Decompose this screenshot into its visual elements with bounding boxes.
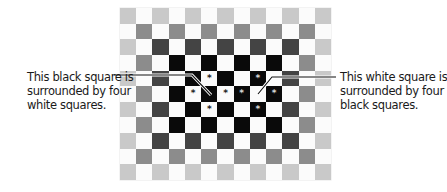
grid-cell-white (250, 55, 266, 71)
grid-cell-dark-gray (217, 39, 233, 55)
grid-cell-white (185, 55, 201, 71)
grid-cell-white (234, 8, 250, 24)
grid-cell-black (185, 102, 201, 118)
grid-cell-white (266, 8, 282, 24)
grid-cell-white: * (185, 86, 201, 102)
grid-cell-medium-gray (234, 149, 250, 165)
grid-cell-white (234, 71, 250, 87)
grid-cell-light-gray (185, 8, 201, 24)
grid-cell-white (136, 102, 152, 118)
grid-cell-black (169, 86, 185, 102)
grid-cell-medium-gray (266, 149, 282, 165)
grid-cell-white (152, 24, 168, 40)
grid-cell-dark-gray (282, 39, 298, 55)
right-caption-line-1: This white square is (340, 70, 447, 84)
grid-cell-white (250, 117, 266, 133)
asterisk-marker-icon: * (256, 105, 261, 114)
grid-cell-light-gray (120, 133, 136, 149)
grid-cell-medium-gray (201, 149, 217, 165)
grid-cell-white (299, 102, 315, 118)
grid-cell-light-gray (282, 164, 298, 180)
grid-cell-white (266, 133, 282, 149)
grid-cell-white (136, 8, 152, 24)
grid-cell-medium-gray (136, 86, 152, 102)
grid-cell-light-gray (315, 102, 331, 118)
grid-cell-medium-gray (201, 24, 217, 40)
grid-cell-dark-gray (217, 133, 233, 149)
grid-cell-black (217, 71, 233, 87)
grid-cell-black: * (266, 86, 282, 102)
grid-cell-white (169, 39, 185, 55)
grid-cell-white (201, 133, 217, 149)
asterisk-marker-icon: * (272, 89, 277, 98)
grid-cell-white (315, 24, 331, 40)
grid-cell-black (234, 117, 250, 133)
grid-cell-white (266, 39, 282, 55)
grid-cell-black (169, 117, 185, 133)
grid-cell-dark-gray (250, 133, 266, 149)
grid-cell-white (250, 149, 266, 165)
grid-cell-light-gray (120, 8, 136, 24)
grid-cell-black (185, 71, 201, 87)
grid-cell-dark-gray (282, 133, 298, 149)
grid-cell-black: * (250, 102, 266, 118)
asterisk-marker-icon: * (239, 89, 244, 98)
grid-cell-black (201, 86, 217, 102)
grid-cell-white (315, 86, 331, 102)
grid-cell-white: * (201, 102, 217, 118)
grid-cell-medium-gray (299, 24, 315, 40)
grid-cell-black (234, 55, 250, 71)
grid-cell-light-gray (250, 164, 266, 180)
grid-cell-white (217, 24, 233, 40)
grid-cell-white (266, 102, 282, 118)
grid-cell-dark-gray (282, 71, 298, 87)
grid-cell-medium-gray (266, 24, 282, 40)
grid-cell-white (266, 164, 282, 180)
grid-cell-light-gray (315, 39, 331, 55)
grid-cell-white (201, 39, 217, 55)
grid-cell-white (169, 8, 185, 24)
grid-cell-white (282, 24, 298, 40)
grid-cell-light-gray (217, 8, 233, 24)
grid-cell-light-gray (315, 164, 331, 180)
grid-cell-black: * (250, 71, 266, 87)
grid-cell-white (315, 55, 331, 71)
grid-cell-white (217, 55, 233, 71)
grid-cell-white (266, 71, 282, 87)
grid-cell-medium-gray (136, 24, 152, 40)
grid-cell-medium-gray (169, 149, 185, 165)
grid-cell-white (217, 117, 233, 133)
grid-cell-white (169, 102, 185, 118)
grid-cell-white (250, 86, 266, 102)
grid-cell-medium-gray (299, 117, 315, 133)
left-caption: This black square is surrounded by four … (27, 70, 133, 112)
grid-cell-black (201, 55, 217, 71)
grid-cell-dark-gray (152, 71, 168, 87)
grid-cell-medium-gray (299, 86, 315, 102)
grid-cell-dark-gray (152, 102, 168, 118)
grid-cell-black (201, 117, 217, 133)
grid-cell-medium-gray (169, 24, 185, 40)
grid-cell-white (152, 149, 168, 165)
grid-cell-light-gray (217, 164, 233, 180)
grid-cell-white (185, 149, 201, 165)
grid-cell-light-gray (282, 8, 298, 24)
grid-cell-white (299, 8, 315, 24)
left-caption-line-3: white squares. (27, 98, 133, 112)
grid-cell-white (299, 133, 315, 149)
grid-cell-white (136, 133, 152, 149)
grid-cell-light-gray (185, 164, 201, 180)
grid-cell-white (282, 117, 298, 133)
grid-cell-light-gray (152, 8, 168, 24)
grid-cell-light-gray (120, 164, 136, 180)
grid-cell-white: * (217, 86, 233, 102)
grid-cell-white (315, 117, 331, 133)
grid-cell-white (315, 149, 331, 165)
grid-cell-black (266, 55, 282, 71)
grid-cell-medium-gray (299, 149, 315, 165)
grid-cell-dark-gray (250, 39, 266, 55)
grid-cell-white (169, 71, 185, 87)
asterisk-marker-icon: * (207, 74, 212, 83)
grid-cell-white (299, 71, 315, 87)
grid-cell-light-gray (152, 164, 168, 180)
